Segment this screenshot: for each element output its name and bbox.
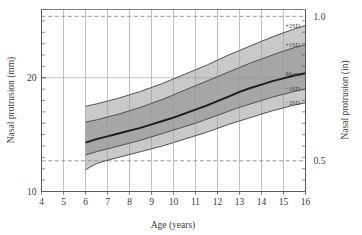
tick-label-x-5: 5 <box>61 197 66 207</box>
tick-label-x-7: 7 <box>105 197 110 207</box>
band-label-minus2sd: −2SD <box>286 99 301 106</box>
band-label-mean: Mean <box>286 70 300 77</box>
band-label-plus2sd: +2SD <box>286 22 301 29</box>
tick-label-x-6: 6 <box>83 197 88 207</box>
tick-label-y-right-1.0: 1.0 <box>314 12 326 22</box>
y-axis-title-left: Nasal protrusion (mm) <box>6 57 17 144</box>
tick-label-y-10: 10 <box>27 187 37 197</box>
chart-container: 4567891011121314151610200.51.0+2SD+1SDMe… <box>0 0 362 235</box>
tick-label-x-9: 9 <box>149 197 154 207</box>
tick-label-x-13: 13 <box>235 197 245 207</box>
band-label-plus1sd: +1SD <box>286 41 301 48</box>
x-axis-title: Age (years) <box>151 220 196 231</box>
tick-label-x-10: 10 <box>169 197 179 207</box>
nasal-protrusion-growth-chart: 4567891011121314151610200.51.0+2SD+1SDMe… <box>0 0 362 235</box>
tick-label-y-20: 20 <box>27 73 37 83</box>
tick-label-x-12: 12 <box>213 197 223 207</box>
tick-label-x-16: 16 <box>301 197 311 207</box>
tick-label-x-15: 15 <box>279 197 289 207</box>
tick-label-x-4: 4 <box>39 197 44 207</box>
tick-label-x-14: 14 <box>257 197 267 207</box>
tick-label-y-right-0.5: 0.5 <box>314 156 326 166</box>
tick-label-x-11: 11 <box>191 197 200 207</box>
y-axis-title-right: Nasal protrusion (in) <box>340 60 351 139</box>
tick-label-x-8: 8 <box>127 197 132 207</box>
band-label-minus1sd: −1SD <box>286 85 301 92</box>
